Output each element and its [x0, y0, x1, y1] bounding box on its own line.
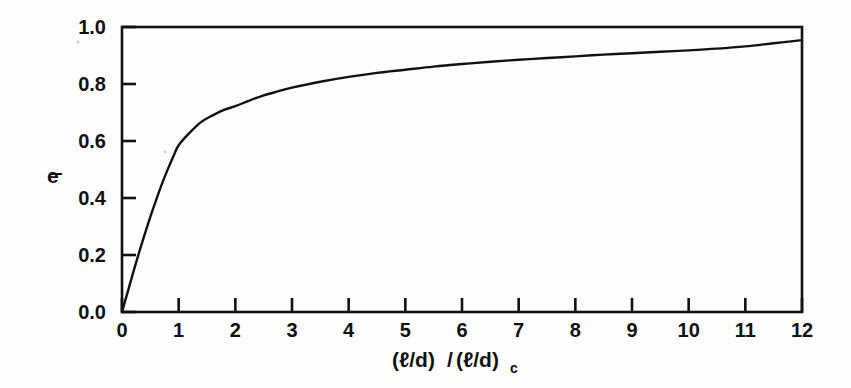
- y-axis-title: e l: [47, 164, 65, 187]
- figure-canvas: 0.00.20.40.60.81.0 0123456789101112 e l …: [0, 0, 851, 388]
- x-tick-label-12: 12: [791, 319, 813, 341]
- y-tick-label-3: 0.6: [78, 130, 106, 152]
- y-tick-label-5: 1.0: [78, 16, 106, 38]
- x-tick-label-10: 10: [678, 319, 700, 341]
- x-tick-label-6: 6: [456, 319, 467, 341]
- x-axis-title-numerator: (ℓ/d): [392, 348, 435, 371]
- y-tick-label-4: 0.8: [78, 73, 106, 95]
- x-axis-title-subscript: c: [510, 360, 518, 376]
- x-tick-label-9: 9: [626, 319, 637, 341]
- x-axis-title-denominator: (ℓ/d): [456, 348, 499, 371]
- x-tick-label-11: 11: [735, 319, 756, 341]
- x-tick-label-1: 1: [173, 319, 184, 341]
- x-tick-label-5: 5: [400, 319, 411, 341]
- x-tick-label-4: 4: [343, 319, 355, 341]
- chart-plot: 0.00.20.40.60.81.0 0123456789101112 e l …: [0, 0, 851, 388]
- scan-speck: [164, 151, 167, 154]
- y-axis-tick-labels: 0.00.20.40.60.81.0: [78, 16, 107, 323]
- scan-speck: [76, 40, 79, 43]
- data-series-line: [122, 40, 802, 312]
- y-tick-label-1: 0.2: [78, 244, 106, 266]
- x-tick-label-3: 3: [286, 319, 297, 341]
- x-axis-title: (ℓ/d) / (ℓ/d) c: [392, 348, 518, 376]
- y-axis-title-subscript: l: [49, 172, 65, 176]
- x-axis-tick-labels: 0123456789101112: [116, 319, 813, 341]
- x-tick-label-7: 7: [513, 319, 524, 341]
- x-axis-ticks: [122, 298, 802, 312]
- x-tick-label-8: 8: [570, 319, 581, 341]
- y-tick-label-0: 0.0: [78, 301, 106, 323]
- x-axis-title-slash: /: [447, 348, 453, 371]
- x-tick-label-0: 0: [116, 319, 127, 341]
- x-tick-label-2: 2: [230, 319, 241, 341]
- plot-frame: [122, 27, 802, 312]
- y-tick-label-2: 0.4: [78, 187, 107, 209]
